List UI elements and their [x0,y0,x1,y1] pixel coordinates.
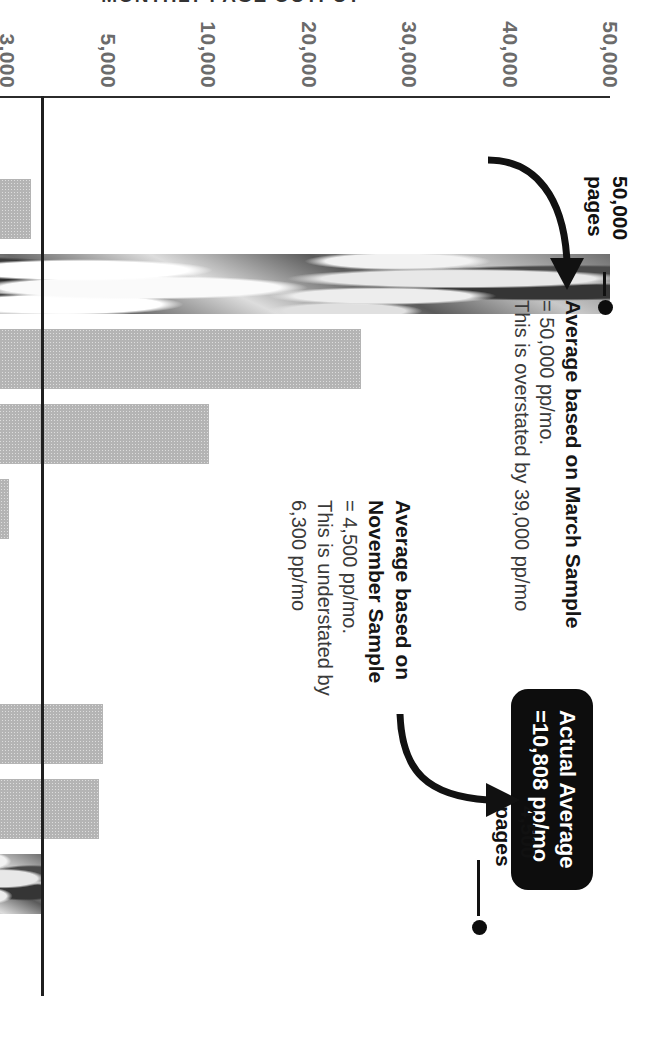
average-reference-line [42,96,45,996]
bar-apr [0,329,361,389]
march-sample-note: Average based on March Sample = 50,000 p… [508,300,586,628]
bar-may [0,404,209,464]
y-axis-ticks: 50,000 40,000 30,000 20,000 10,000 5,000… [0,0,610,88]
y-tick-40000: 40,000 [498,21,522,88]
november-note-line2: This is understated by [311,500,337,696]
march-note-line1: = 50,000 pp/mo. [534,300,560,628]
bar-jun [0,479,9,539]
rotated-chart-canvas: 50,000 40,000 30,000 20,000 10,000 5,000… [0,0,652,1062]
bar-sep [0,704,103,764]
y-tick-20000: 20,000 [297,21,321,88]
march-note-line2: This is overstated by 39,000 pp/mo [508,300,534,628]
march-leader-tick [603,272,606,296]
november-note-heading-1: Average based on [389,500,416,696]
y-tick-50000: 50,000 [598,21,622,88]
y-tick-3000: 3,000 [0,33,19,88]
y-axis-title: MONTHLY PAGE OUTPUT [101,0,361,7]
actual-average-line1: Actual Average [553,710,580,869]
bar-chart: 50,000 40,000 30,000 20,000 10,000 5,000… [0,0,652,1062]
bar-feb [0,179,31,239]
november-curved-arrow [392,700,532,830]
november-leader-tick [477,860,480,916]
bar-slot-dec [0,929,610,989]
y-tick-30000: 30,000 [397,21,421,88]
bar-nov [0,854,42,914]
november-note-line3: 6,300 pp/mo [285,500,311,696]
bar-oct [0,779,99,839]
november-leader-dot [472,920,487,935]
november-note-heading-2: November Sample [362,500,389,696]
march-leader-dot [598,300,613,315]
march-leader-line1: 50,000 [607,176,632,240]
y-tick-10000: 10,000 [196,21,220,88]
november-sample-note: Average based on November Sample = 4,500… [285,500,416,696]
march-curved-arrow [480,150,600,300]
y-tick-5000: 5,000 [96,33,120,88]
march-note-heading: Average based on March Sample [559,300,586,628]
november-note-line1: = 4,500 pp/mo. [337,500,363,696]
